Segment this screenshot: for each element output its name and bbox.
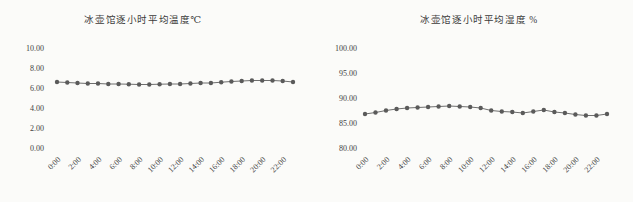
data-point bbox=[479, 106, 483, 110]
data-point bbox=[563, 111, 567, 115]
series-line bbox=[365, 106, 607, 116]
x-tick-label: 10:00 bbox=[456, 155, 475, 174]
x-tick-label: 8:00 bbox=[438, 155, 454, 171]
data-point bbox=[531, 109, 535, 113]
data-point bbox=[106, 82, 110, 86]
dual-chart-figure: 冰壶馆逐小时平均温度℃ 冰壶馆逐小时平均湿度 % 0.002.004.006.0… bbox=[0, 0, 633, 202]
x-tick-label: 10:00 bbox=[146, 155, 165, 174]
data-point bbox=[468, 105, 472, 109]
y-tick-label: 4.00 bbox=[30, 104, 44, 113]
data-point bbox=[127, 82, 131, 86]
x-tick-label: 4:00 bbox=[87, 155, 103, 171]
y-tick-label: 0.00 bbox=[30, 144, 44, 153]
x-tick-label: 16:00 bbox=[207, 155, 226, 174]
charts-canvas: 0.002.004.006.008.0010.000:002:004:006:0… bbox=[0, 0, 633, 202]
data-point bbox=[147, 82, 151, 86]
y-tick-label: 95.00 bbox=[339, 69, 357, 78]
data-point bbox=[96, 81, 100, 85]
data-point bbox=[426, 105, 430, 109]
x-tick-label: 20:00 bbox=[248, 155, 267, 174]
data-point bbox=[55, 80, 59, 84]
x-tick-label: 14:00 bbox=[498, 155, 517, 174]
data-point bbox=[552, 110, 556, 114]
data-point bbox=[573, 112, 577, 116]
data-point bbox=[240, 79, 244, 83]
y-tick-label: 6.00 bbox=[30, 84, 44, 93]
x-tick-label: 16:00 bbox=[519, 155, 538, 174]
x-tick-label: 4:00 bbox=[396, 155, 412, 171]
x-tick-label: 12:00 bbox=[166, 155, 185, 174]
data-point bbox=[373, 110, 377, 114]
data-point bbox=[447, 104, 451, 108]
series-line bbox=[57, 81, 293, 85]
x-tick-label: 2:00 bbox=[375, 155, 391, 171]
x-tick-label: 22:00 bbox=[269, 155, 288, 174]
data-point bbox=[584, 113, 588, 117]
x-tick-label: 22:00 bbox=[583, 155, 602, 174]
x-tick-label: 18:00 bbox=[541, 155, 560, 174]
data-point bbox=[281, 79, 285, 83]
y-tick-label: 8.00 bbox=[30, 64, 44, 73]
data-point bbox=[75, 81, 79, 85]
y-tick-label: 100.00 bbox=[335, 44, 357, 53]
data-point bbox=[116, 82, 120, 86]
data-point bbox=[394, 107, 398, 111]
data-point bbox=[229, 79, 233, 83]
y-tick-label: 90.00 bbox=[339, 94, 357, 103]
x-tick-label: 8:00 bbox=[128, 155, 144, 171]
y-tick-label: 10.00 bbox=[26, 44, 44, 53]
data-point bbox=[219, 80, 223, 84]
data-point bbox=[198, 81, 202, 85]
data-point bbox=[86, 81, 90, 85]
data-point bbox=[510, 110, 514, 114]
data-point bbox=[250, 78, 254, 82]
data-point bbox=[500, 109, 504, 113]
x-tick-label: 6:00 bbox=[108, 155, 124, 171]
data-point bbox=[65, 80, 69, 84]
data-point bbox=[605, 112, 609, 116]
y-tick-label: 85.00 bbox=[339, 119, 357, 128]
x-tick-label: 0:00 bbox=[354, 155, 370, 171]
y-tick-label: 2.00 bbox=[30, 124, 44, 133]
data-point bbox=[209, 81, 213, 85]
data-point bbox=[489, 108, 493, 112]
data-point bbox=[458, 104, 462, 108]
x-tick-label: 18:00 bbox=[228, 155, 247, 174]
x-tick-label: 0:00 bbox=[46, 155, 62, 171]
x-tick-label: 14:00 bbox=[187, 155, 206, 174]
data-point bbox=[384, 108, 388, 112]
data-point bbox=[521, 111, 525, 115]
data-point bbox=[260, 78, 264, 82]
data-point bbox=[137, 82, 141, 86]
x-tick-label: 12:00 bbox=[477, 155, 496, 174]
data-point bbox=[178, 82, 182, 86]
x-tick-label: 2:00 bbox=[67, 155, 83, 171]
x-tick-label: 20:00 bbox=[562, 155, 581, 174]
data-point bbox=[291, 80, 295, 84]
data-point bbox=[363, 112, 367, 116]
data-point bbox=[405, 106, 409, 110]
data-point bbox=[270, 78, 274, 82]
data-point bbox=[188, 81, 192, 85]
data-point bbox=[542, 108, 546, 112]
y-tick-label: 80.00 bbox=[339, 144, 357, 153]
data-point bbox=[415, 105, 419, 109]
data-point bbox=[436, 104, 440, 108]
data-point bbox=[168, 82, 172, 86]
data-point bbox=[594, 113, 598, 117]
x-tick-label: 6:00 bbox=[417, 155, 433, 171]
data-point bbox=[157, 82, 161, 86]
